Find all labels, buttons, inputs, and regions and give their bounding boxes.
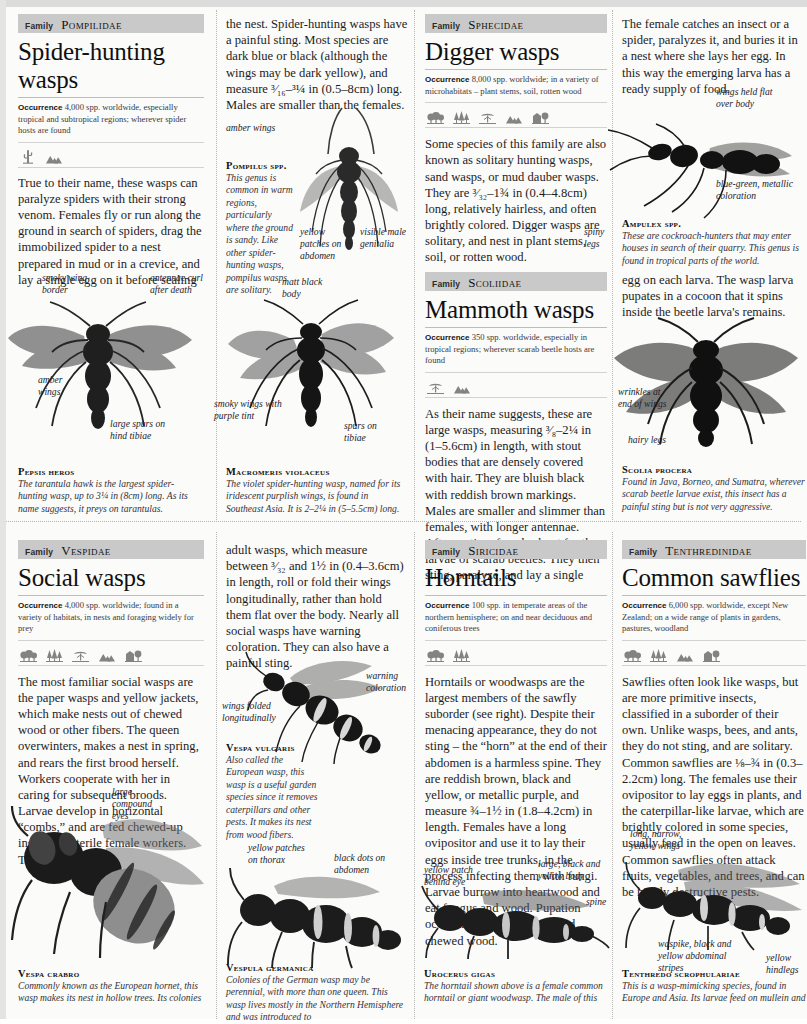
annotation-yellow-patches-thorax: yellow patches on thorax (248, 842, 310, 866)
occurrence-label: Occurrence (18, 103, 62, 112)
entry-title: Digger wasps (425, 38, 607, 66)
specimen-name: Pepsis heros (18, 466, 194, 477)
specimen-description: The violet spider-hunting wasp, named fo… (226, 478, 408, 515)
divider (622, 595, 806, 596)
specimen-name: Ampulex spp. (622, 218, 806, 229)
entry-scoliidae: Family Scoliidae Mammoth wasps Occurrenc… (425, 272, 607, 584)
occurrence-label: Occurrence (425, 75, 469, 84)
occurrence-label: Occurrence (425, 601, 469, 610)
caption-vespula-germanica: Vespula germanica Colonies of the German… (226, 962, 408, 1024)
occurrence-block: Occurrence 6,000 spp. worldwide, except … (622, 600, 806, 635)
entry-paragraph-2: egg on each larva. The wasp larva pupate… (622, 272, 800, 321)
conifers-icon (453, 649, 470, 662)
divider (18, 665, 204, 666)
specimen-description: Found in Java, Borneo, and Sumatra, wher… (622, 476, 806, 513)
specimen-photo-urocerus-gigas (420, 884, 610, 960)
specimen-photo-vespula-germanica (222, 866, 412, 970)
divider (18, 595, 204, 596)
savanna-tree-icon (427, 381, 444, 394)
page-top-edge (0, 0, 807, 7)
divider (18, 142, 204, 143)
section-divider-horizontal (6, 521, 801, 522)
habitat-icons (427, 645, 607, 662)
annotation-spiny-legs: spiny legs (584, 226, 618, 250)
divider (18, 97, 204, 98)
annotation-wings-held-flat: wings held flat over body (716, 86, 790, 110)
mountains-icon (45, 154, 63, 164)
annotation-blue-green-metallic: blue-green, metallic coloration (716, 178, 806, 202)
specimen-description: The tarantula hawk is the largest spider… (18, 478, 194, 515)
divider (18, 167, 204, 168)
broadleaf-trees-icon (427, 650, 444, 662)
family-label: Family (432, 547, 460, 557)
conifers-icon (650, 649, 667, 662)
savanna-tree-icon (72, 649, 89, 662)
specimen-description: The horntail shown above is a female com… (424, 980, 606, 1005)
occurrence-block: Occurrence 350 spp. worldwide, especiall… (425, 332, 607, 367)
entry-title: Horntails (425, 564, 607, 592)
family-name: Vespidae (61, 543, 111, 559)
annotation-visible-male-genitalia: visible male genitalia (360, 226, 408, 250)
broadleaf-trees-icon (427, 112, 444, 124)
divider (18, 640, 204, 641)
family-banner-scoliidae: Family Scoliidae (425, 272, 607, 291)
specimen-description: Also called the European wasp, this wasp… (226, 754, 320, 841)
family-label: Family (25, 547, 53, 557)
column-divider-5 (414, 532, 415, 1019)
specimen-name: Vespa crabro (18, 968, 204, 979)
mountains-icon (453, 384, 471, 394)
specimen-name: Pompilus spp. (226, 160, 296, 171)
entry-paragraph-1: True to their name, these wasps can para… (18, 175, 204, 288)
annotation-amber-wings: amber wings (226, 122, 306, 134)
occurrence-label: Occurrence (18, 601, 62, 610)
specimen-description: This is a wasp-mimicking species, found … (622, 980, 806, 1005)
entry-title: Common sawflies (622, 564, 806, 592)
urban-icon (125, 649, 142, 662)
family-banner-vespidae: Family Vespidae (18, 540, 204, 559)
broadleaf-trees-icon (624, 650, 641, 662)
family-banner-pompilidae: Family Pompilidae (18, 14, 204, 33)
specimen-name: Tenthredo scrophulariae (622, 968, 806, 979)
entry-paragraph-1: Some species of this family are also kno… (425, 136, 607, 265)
occurrence-block: Occurrence 100 spp. in temperate areas o… (425, 600, 607, 635)
occurrence-block: Occurrence 4,000 spp. worldwide; found i… (18, 600, 204, 635)
family-banner-siricidae: Family Siricidae (425, 540, 607, 559)
specimen-photo-vespa-crabro (6, 800, 212, 960)
sphecidae-continuation: The female catches an insect or a spider… (622, 16, 800, 97)
occurrence-block: Occurrence 8,000 spp. worldwide; in a va… (425, 74, 607, 97)
family-label: Family (432, 279, 460, 289)
divider (425, 372, 607, 373)
annotation-smoky-wings-purple-tint: smoky wings with purple tint (214, 398, 284, 422)
annotation-spurs-on-tibiae: spurs on tibiae (344, 420, 396, 444)
annotation-wrinkles-end-of-wings: wrinkles at end of wings (618, 386, 676, 410)
conifers-icon (453, 111, 470, 124)
caption-urocerus-gigas: Urocerus gigas The horntail shown above … (424, 968, 606, 1005)
divider (425, 327, 607, 328)
specimen-description: Colonies of the German wasp may be peren… (226, 974, 408, 1024)
specimen-photo-tenthredo (618, 848, 807, 952)
entry-title: Mammoth wasps (425, 296, 607, 324)
entry-title: Spider-hunting wasps (18, 38, 204, 94)
scoliidae-continuation: egg on each larva. The wasp larva pupate… (622, 272, 800, 321)
family-name: Sphecidae (468, 17, 523, 33)
specimen-name: Vespa vulgaris (226, 742, 320, 753)
divider (425, 665, 607, 666)
divider (425, 102, 607, 103)
column-divider-6 (612, 532, 613, 1019)
urban-icon (532, 111, 549, 124)
annotation-spine: spine (586, 896, 612, 908)
specimen-description: These are cockroach-hunters that may ent… (622, 230, 806, 267)
specimen-name: Urocerus gigas (424, 968, 606, 979)
habitat-icons (20, 147, 204, 164)
annotation-hairy-legs: hairy legs (628, 434, 668, 446)
family-name: Pompilidae (61, 17, 122, 33)
habitat-icons (427, 377, 607, 394)
specimen-name: Vespula germanica (226, 962, 408, 973)
annotation-wings-folded-longitudinally: wings folded longitudinally (222, 700, 292, 724)
annotation-large-black-yellow-body: large, black and yellow body (538, 858, 608, 882)
column-divider-2 (414, 10, 415, 520)
mountains-icon (676, 652, 694, 662)
column-divider-1 (216, 10, 217, 520)
family-banner-sphecidae: Family Sphecidae (425, 14, 607, 33)
